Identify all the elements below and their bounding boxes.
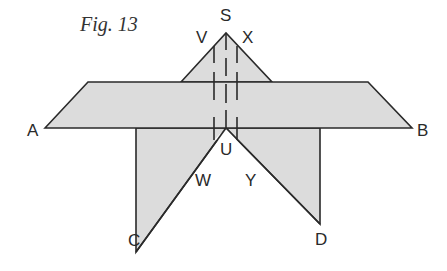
- figure-13-diagram: Fig. 13 S V X A B U W Y C D: [0, 0, 447, 271]
- label-w: W: [195, 171, 211, 190]
- label-d: D: [315, 230, 327, 249]
- label-y: Y: [245, 171, 256, 190]
- label-b: B: [417, 121, 428, 140]
- diagram-svg: Fig. 13 S V X A B U W Y C D: [0, 0, 447, 271]
- label-c: C: [128, 231, 140, 250]
- label-a: A: [27, 121, 39, 140]
- label-u: U: [220, 140, 232, 159]
- label-v: V: [196, 28, 208, 47]
- label-x: X: [242, 28, 253, 47]
- label-s: S: [220, 6, 231, 25]
- horizontal-plane-ab: [45, 82, 412, 128]
- figure-caption: Fig. 13: [79, 13, 138, 36]
